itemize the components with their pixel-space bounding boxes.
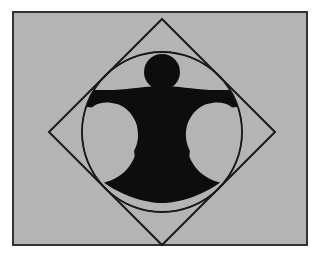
torso-column (134, 92, 190, 186)
figure-illustration (0, 0, 326, 265)
image-canvas: Black human silhouette with head, outstr… (0, 0, 326, 265)
